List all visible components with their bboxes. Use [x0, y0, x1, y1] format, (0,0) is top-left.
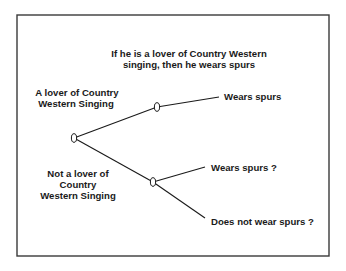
node-lover [154, 103, 159, 112]
decision-tree-diagram: If he is a lover of Country Western sing… [0, 0, 346, 271]
outcome-label-not-lover-wears-spurs: Wears spurs ? [211, 162, 277, 173]
branch-label-not-lover-line-3: Western Singing [40, 190, 116, 201]
outcome-label-lover-wears-spurs: Wears spurs [224, 91, 281, 102]
branch-label-lover-line-2: Western Singing [38, 98, 114, 109]
outcome-label-not-lover-does-not-wear-spurs: Does not wear spurs ? [211, 216, 314, 227]
node-root [71, 134, 76, 143]
branch-label-not-lover-line-1: Not a lover of [47, 168, 109, 179]
branch-label-lover-line-1: A lover of Country [35, 87, 119, 98]
diagram-title-line-1: If he is a lover of Country Western [111, 48, 267, 59]
node-not-lover [150, 178, 155, 187]
branch-label-not-lover-line-2: Country [60, 179, 97, 190]
diagram-title-line-2: singing, then he wears spurs [123, 59, 255, 70]
